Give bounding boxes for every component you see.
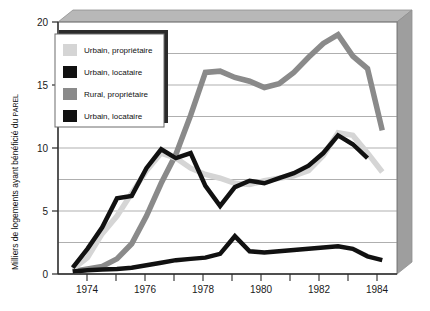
x-tick-label: 1978 — [192, 284, 215, 295]
legend: Urbain, propriétaire Urbain, locataire R… — [55, 30, 168, 127]
x-tick-label: 1974 — [76, 284, 99, 295]
frame-right-face — [397, 10, 412, 274]
x-tick-labels: 1974 1976 1978 1980 1982 1984 — [76, 284, 389, 295]
y-tick-label: 20 — [37, 17, 49, 28]
legend-swatch-0 — [63, 44, 77, 56]
y-axis-title-main: Milliers de logements ayant bénéficié du — [10, 116, 20, 270]
x-axis — [58, 274, 397, 281]
legend-label-0: Urbain, propriétaire — [84, 46, 153, 55]
x-tick-label: 1980 — [250, 284, 273, 295]
frame-top-face — [58, 10, 412, 22]
y-tick-label: 15 — [37, 80, 49, 91]
y-tick-label: 5 — [42, 206, 48, 217]
chart-container: 20 15 10 5 0 Milliers de logements ayant… — [0, 0, 430, 311]
legend-label-3: Urbain, locataire — [84, 112, 143, 121]
legend-label-2: Rural, propriétaire — [84, 90, 149, 99]
legend-swatch-1 — [63, 66, 77, 78]
svg-text:Milliers de logements ayant bé: Milliers de logements ayant bénéficié du… — [10, 94, 20, 270]
y-axis-title-acronym: PAREL — [12, 94, 19, 117]
legend-swatch-3 — [63, 110, 77, 122]
line-chart: 20 15 10 5 0 Milliers de logements ayant… — [0, 0, 430, 311]
x-tick-label: 1984 — [366, 284, 389, 295]
y-tick-label: 0 — [42, 269, 48, 280]
x-tick-label: 1976 — [134, 284, 157, 295]
legend-label-1: Urbain, locataire — [84, 68, 143, 77]
x-tick-label: 1982 — [308, 284, 331, 295]
y-axis-title: Milliers de logements ayant bénéficié du… — [10, 94, 20, 270]
y-tick-label: 10 — [37, 143, 49, 154]
y-tick-labels: 20 15 10 5 0 — [37, 17, 49, 280]
legend-swatch-2 — [63, 88, 77, 100]
